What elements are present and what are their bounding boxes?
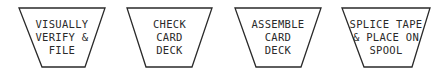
shape-3-label: ASSEMBLE CARD DECK: [235, 18, 321, 57]
label-line: SPLICE TAPE: [342, 18, 430, 31]
label-line: FILE: [19, 44, 105, 57]
shape-1-label: VISUALLY VERIFY & FILE: [19, 18, 105, 57]
label-line: CHECK: [127, 18, 212, 31]
label-line: CARD: [235, 31, 321, 44]
shape-4-label: SPLICE TAPE & PLACE ON SPOOL: [342, 18, 430, 57]
label-line: CARD: [127, 31, 212, 44]
label-line: DECK: [127, 44, 212, 57]
label-line: VISUALLY: [19, 18, 105, 31]
label-line: SPOOL: [342, 44, 430, 57]
shape-2-label: CHECK CARD DECK: [127, 18, 212, 57]
label-line: DECK: [235, 44, 321, 57]
label-line: VERIFY &: [19, 31, 105, 44]
label-line: ASSEMBLE: [235, 18, 321, 31]
label-line: & PLACE ON: [342, 31, 430, 44]
